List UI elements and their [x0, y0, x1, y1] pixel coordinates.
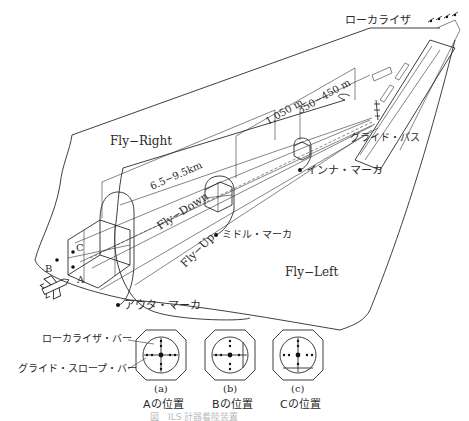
indicator-b	[205, 330, 255, 380]
glide-path-label: グライド・パス	[350, 131, 420, 143]
point-c-dot	[71, 250, 75, 254]
point-a-dot	[71, 265, 75, 269]
glide-slope-bar-label: グライド・スロープ・バー	[18, 362, 137, 374]
glide-path-antenna-icon	[374, 100, 380, 120]
outer-marker-label: アウタ・マーカ	[124, 299, 201, 312]
figure-caption: 図 ILS 計器着陸装置	[150, 411, 238, 421]
fly-left-label: Fly−Left	[285, 265, 339, 279]
middle-marker-label: ミドル・マーカ	[222, 229, 292, 240]
point-a-label: A	[76, 274, 85, 285]
indicator-a-tag: (a)	[154, 383, 168, 394]
inner-marker-label: インナ・マーカ	[306, 164, 383, 177]
distance-outer-label: 6.5−9.5km	[148, 159, 204, 192]
indicator-c-tag: (c)	[291, 383, 305, 394]
runway	[355, 40, 455, 170]
indicator-b-tag: (b)	[223, 383, 237, 394]
fly-down-label: Fly−Down	[155, 190, 211, 233]
middle-marker-dot	[214, 233, 218, 237]
localizer-bar-label: ローカライザ・バー	[42, 333, 132, 344]
inner-marker-dot	[298, 168, 302, 172]
localizer-label: ローカライザ	[345, 14, 411, 27]
ils-diagram: ローカライザ グライド・パス インナ・マーカ ミドル・マーカ アウタ・マーカ F…	[0, 0, 469, 421]
indicator-b-caption: Bの位置	[212, 397, 253, 411]
fly-right-label: Fly−Right	[110, 134, 172, 148]
point-b-label: B	[45, 263, 52, 274]
localizer-coverage-envelope	[35, 20, 460, 330]
point-c-label: C	[76, 242, 84, 253]
indicator-c-caption: Cの位置	[280, 397, 321, 411]
fly-up-label: Fly−Up	[178, 231, 218, 271]
indicator-c	[273, 330, 323, 380]
distance-inner-label: 350−450 m	[296, 76, 353, 115]
outer-marker-dot	[116, 303, 120, 307]
point-b-dot	[55, 258, 59, 262]
indicator-a-caption: Aの位置	[143, 397, 184, 411]
